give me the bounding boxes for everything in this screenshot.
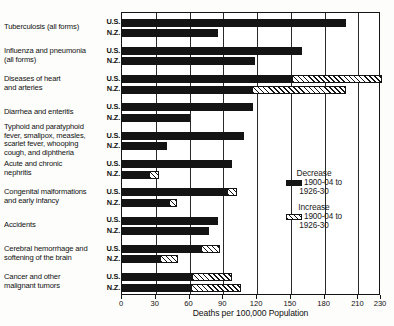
bar-segment-increase (192, 273, 233, 281)
category-label-tuberculosis: Tuberculosis (all forms) (4, 23, 116, 32)
bar-segment-decrease (121, 255, 160, 263)
x-tick-label-0: 0 (119, 299, 123, 308)
legend-increase-line2: 1926-30 (252, 221, 376, 230)
bar-heart-arteries-nz (121, 86, 346, 94)
bar-nephritis-us (121, 160, 232, 168)
x-tick-label-230: 230 (374, 299, 387, 308)
gridline-150 (291, 13, 292, 294)
x-tick-label-60: 60 (184, 299, 192, 308)
category-label-line: nephritis (4, 169, 116, 178)
x-tick-label-150: 150 (284, 299, 297, 308)
category-label-cancer: Cancer and othermalignant tumors (4, 273, 116, 290)
bar-segment-decrease (121, 29, 218, 37)
category-label-line: and arteries (4, 84, 116, 93)
category-label-line: softening of the brain (4, 254, 116, 263)
bar-cerebral-hemorrhage-us (121, 245, 220, 253)
bar-influenza-pneumonia-us (121, 47, 302, 55)
category-label-line: cough, and diphtheria (4, 149, 116, 158)
bar-segment-decrease (121, 245, 201, 253)
bar-segment-decrease (121, 57, 255, 65)
bar-segment-decrease (121, 284, 191, 292)
legend-swatch-decrease-icon (286, 180, 302, 186)
bar-heart-arteries-us (121, 75, 382, 83)
category-label-congenital: Congenital malformationsand early infanc… (4, 188, 116, 205)
category-label-nephritis: Acute and chronicnephritis (4, 160, 116, 177)
category-label-line: malignant tumors (4, 282, 116, 291)
bar-segment-increase (160, 255, 178, 263)
bar-diarrhea-enteritis-us (121, 103, 253, 111)
legend-increase-heading: Increase (252, 202, 376, 212)
bar-segment-decrease (121, 171, 149, 179)
x-tick-label-180: 180 (317, 299, 330, 308)
x-tick-label-90: 90 (218, 299, 226, 308)
bar-congenital-nz (121, 199, 177, 207)
category-label-line: (all forms) (4, 56, 116, 65)
bar-segment-decrease (121, 273, 192, 281)
category-label-line: Diarrhea and enteritis (4, 108, 116, 117)
bar-typhoid-group-us (121, 132, 244, 140)
bar-influenza-pneumonia-nz (121, 57, 255, 65)
bar-segment-decrease (121, 227, 209, 235)
bar-segment-decrease (121, 199, 169, 207)
x-axis-title: Deaths per 100,000 Population (121, 308, 380, 318)
legend-entry-decrease: Decrease 1900-04 to 1926-30 (252, 168, 376, 196)
legend-decrease-period-start: 1900-04 to (304, 178, 342, 187)
bar-typhoid-group-nz (121, 142, 167, 150)
bar-segment-decrease (121, 217, 218, 225)
bar-segment-increase (292, 75, 382, 83)
bar-segment-increase (201, 245, 220, 253)
gridline-120 (257, 13, 258, 294)
category-label-line: and early infancy (4, 197, 116, 206)
legend-decrease-line1: 1900-04 to (252, 178, 376, 187)
category-label-diarrhea-enteritis: Diarrhea and enteritis (4, 108, 116, 117)
bar-cancer-us (121, 273, 232, 281)
category-label-influenza-pneumonia: Influenza and pneumonia(all forms) (4, 47, 116, 64)
bar-segment-decrease (121, 132, 244, 140)
bar-segment-increase (169, 199, 177, 207)
legend-increase-line1: 1900-04 to (252, 212, 376, 221)
bar-segment-decrease (121, 47, 302, 55)
category-label-cerebral-hemorrhage: Cerebral hemorrhage andsoftening of the … (4, 245, 116, 262)
bar-segment-increase (149, 171, 159, 179)
x-tick-label-120: 120 (250, 299, 263, 308)
bar-segment-decrease (121, 75, 292, 83)
bar-segment-increase (227, 188, 237, 196)
category-label-line: Tuberculosis (all forms) (4, 23, 116, 32)
bar-chart: Deaths per 100,000 Population 0306090120… (0, 0, 394, 326)
bar-segment-increase (252, 86, 347, 94)
gridline-210 (358, 13, 359, 294)
bar-accidents-us (121, 217, 218, 225)
category-label-typhoid-group: Typhoid and paratyphoidfever, smallpox, … (4, 123, 116, 157)
chart-legend: Decrease 1900-04 to 1926-30 Increase 190… (252, 168, 376, 236)
bar-diarrhea-enteritis-nz (121, 114, 190, 122)
category-label-accidents: Accidents (4, 221, 116, 230)
bar-tuberculosis-us (121, 19, 346, 27)
x-axis: Deaths per 100,000 Population 0306090120… (121, 295, 380, 325)
bar-congenital-us (121, 188, 237, 196)
bar-segment-increase (191, 284, 242, 292)
bar-tuberculosis-nz (121, 29, 218, 37)
legend-entry-increase: Increase 1900-04 to 1926-30 (252, 202, 376, 230)
bar-segment-decrease (121, 188, 227, 196)
x-tick-label-210: 210 (351, 299, 364, 308)
legend-decrease-line2: 1926-30 (252, 187, 376, 196)
bar-nephritis-nz (121, 171, 159, 179)
bar-segment-decrease (121, 103, 253, 111)
gridline-90 (223, 13, 224, 294)
legend-increase-period-start: 1900-04 to (304, 212, 342, 221)
category-label-line: Accidents (4, 221, 116, 230)
x-tick-label-30: 30 (151, 299, 159, 308)
gridline-180 (325, 13, 326, 294)
bar-segment-decrease (121, 142, 167, 150)
bar-cancer-nz (121, 284, 241, 292)
bar-segment-decrease (121, 86, 252, 94)
legend-decrease-heading: Decrease (252, 168, 376, 178)
bar-segment-decrease (121, 19, 346, 27)
bar-cerebral-hemorrhage-nz (121, 255, 178, 263)
bar-segment-decrease (121, 160, 232, 168)
category-label-heart-arteries: Diseases of heartand arteries (4, 75, 116, 92)
bar-accidents-nz (121, 227, 209, 235)
legend-swatch-increase-icon (286, 214, 302, 220)
bar-segment-decrease (121, 114, 190, 122)
